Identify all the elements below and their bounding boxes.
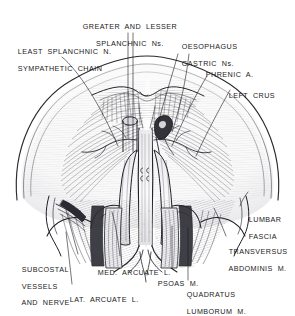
- label-line: OESOPHAGUS: [182, 42, 238, 51]
- label-line: QUADRATUS: [187, 290, 236, 299]
- label-least-splanchnic-sympathetic: LEAST SPLANCHNIC N. SYMPATHETIC CHAIN: [8, 40, 133, 81]
- figure-canvas: GREATER AND LESSER SPLANCHNIC Ns. LEAST …: [0, 0, 295, 316]
- label-line: ABDOMINIS M.: [228, 264, 286, 273]
- label-line: TRANSVERSUS: [229, 247, 288, 256]
- label-line: LUMBORUM M.: [187, 307, 246, 316]
- label-line: LUMBAR: [249, 215, 282, 224]
- label-line: GREATER AND LESSER: [83, 22, 177, 31]
- label-line: SUBCOSTAL: [22, 265, 69, 274]
- label-lat-arcuate-ligament: LAT. ARCUATE L.: [60, 288, 150, 313]
- label-left-crus: LEFT CRUS: [219, 84, 291, 109]
- label-line: VESSELS: [22, 282, 58, 291]
- label-line: PHRENIC A.: [206, 70, 254, 79]
- label-line: LEAST SPLANCHNIC N.: [18, 47, 112, 56]
- label-line: SYMPATHETIC CHAIN: [18, 64, 103, 73]
- label-quadratus-lumborum: QUADRATUS LUMBORUM M.: [177, 283, 255, 316]
- label-line: LEFT CRUS: [229, 91, 275, 100]
- label-transversus-abdominis: TRANSVERSUS ABDOMINIS M.: [219, 240, 295, 281]
- label-line: LAT. ARCUATE L.: [70, 295, 139, 304]
